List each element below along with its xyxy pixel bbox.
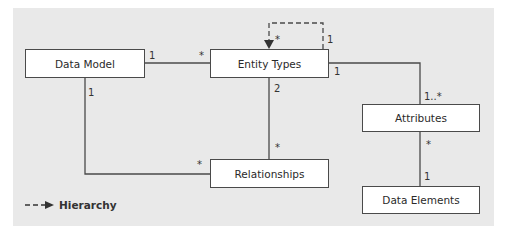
entity-data-model[interactable]: Data Model bbox=[25, 49, 145, 78]
legend: Hierarchy bbox=[25, 199, 117, 211]
entity-attributes[interactable]: Attributes bbox=[362, 104, 480, 132]
entity-label: Entity Types bbox=[238, 58, 302, 70]
connector-entitytypes-attributes bbox=[329, 63, 420, 104]
legend-label: Hierarchy bbox=[59, 199, 117, 211]
dashed-arrow-icon bbox=[25, 199, 55, 211]
entity-label: Data Elements bbox=[382, 194, 459, 206]
multiplicity-label: 1 bbox=[327, 35, 333, 45]
multiplicity-label: 1 bbox=[88, 88, 94, 98]
entity-entity-types[interactable]: Entity Types bbox=[210, 49, 329, 78]
multiplicity-label: * bbox=[275, 143, 280, 153]
entity-data-elements[interactable]: Data Elements bbox=[362, 186, 480, 214]
multiplicity-label: 1 bbox=[149, 51, 155, 61]
multiplicity-label: * bbox=[275, 35, 280, 45]
multiplicity-label: 1 bbox=[424, 172, 430, 182]
multiplicity-label: 1 bbox=[334, 67, 340, 77]
multiplicity-label: 1..* bbox=[424, 92, 442, 102]
multiplicity-label: * bbox=[197, 160, 202, 170]
multiplicity-label: 2 bbox=[274, 84, 280, 94]
entity-label: Attributes bbox=[395, 112, 447, 124]
entity-label: Data Model bbox=[55, 58, 115, 70]
multiplicity-label: * bbox=[199, 51, 204, 61]
connector-datamodel-relationships bbox=[85, 78, 210, 174]
hierarchy-arrowhead-icon bbox=[264, 40, 274, 49]
multiplicity-label: * bbox=[426, 140, 431, 150]
entity-relationships[interactable]: Relationships bbox=[210, 159, 329, 188]
entity-label: Relationships bbox=[235, 168, 305, 180]
